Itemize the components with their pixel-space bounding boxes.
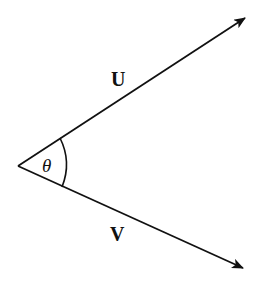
vector-angle-diagram: U V θ [0,0,263,284]
vector-v-line [18,166,243,268]
angle-arc [60,138,67,187]
angle-theta-label: θ [42,155,51,176]
vector-u-line [18,18,245,166]
vector-v-label: V [110,223,125,245]
vector-u-label: U [111,68,125,90]
